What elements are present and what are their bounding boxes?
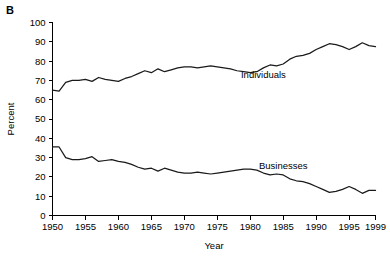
series-label-businesses: Businesses bbox=[259, 160, 308, 171]
panel-letter: B bbox=[6, 4, 14, 16]
y-tick-label: 50 bbox=[35, 113, 46, 124]
x-tick-label: 1980 bbox=[240, 221, 261, 232]
y-tick-label: 80 bbox=[35, 56, 46, 67]
series-inline-labels: IndividualsBusinesses bbox=[241, 69, 308, 171]
y-tick-label: 70 bbox=[35, 75, 46, 86]
chart-figure: B 0102030405060708090100 195019551960196… bbox=[0, 0, 390, 256]
x-tick-label: 1965 bbox=[141, 221, 162, 232]
data-line-individuals bbox=[53, 43, 376, 91]
y-tick-label: 100 bbox=[30, 17, 46, 28]
y-tick-label: 20 bbox=[35, 171, 46, 182]
series-label-individuals: Individuals bbox=[241, 69, 286, 80]
x-tick-label: 1950 bbox=[42, 221, 63, 232]
line-chart: 0102030405060708090100 19501955196019651… bbox=[0, 0, 390, 256]
y-axis-title: Percent bbox=[5, 102, 16, 135]
data-line-businesses bbox=[53, 147, 376, 193]
x-tick-label: 1960 bbox=[108, 221, 129, 232]
y-tick-label: 60 bbox=[35, 94, 46, 105]
x-tick-label: 1975 bbox=[207, 221, 228, 232]
x-tick-label: 1970 bbox=[174, 221, 195, 232]
data-series-group bbox=[53, 43, 376, 194]
y-tick-label: 10 bbox=[35, 191, 46, 202]
y-tick-label: 40 bbox=[35, 133, 46, 144]
y-tick-label: 30 bbox=[35, 152, 46, 163]
x-tick-label: 1990 bbox=[306, 221, 327, 232]
y-axis-ticks: 0102030405060708090100 bbox=[30, 17, 53, 221]
y-tick-label: 0 bbox=[40, 210, 45, 221]
x-tick-label: 1999 bbox=[365, 221, 386, 232]
y-tick-label: 90 bbox=[35, 36, 46, 47]
x-tick-label: 1985 bbox=[273, 221, 294, 232]
x-axis-ticks: 1950195519601965197019751980198519901995… bbox=[42, 216, 386, 233]
x-axis-title: Year bbox=[204, 240, 223, 251]
x-tick-label: 1955 bbox=[75, 221, 96, 232]
x-tick-label: 1995 bbox=[339, 221, 360, 232]
